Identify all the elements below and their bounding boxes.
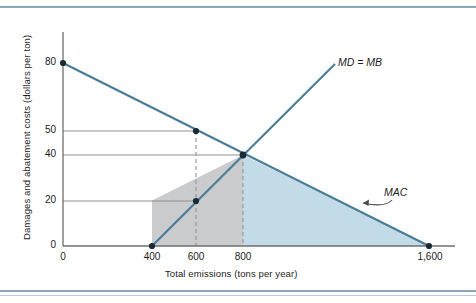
bottom-rule-primary xyxy=(0,290,476,292)
point-400-0 xyxy=(149,243,155,249)
y-tick-label-80: 80 xyxy=(26,56,56,67)
x-tick-label-800: 800 xyxy=(228,251,258,262)
x-tick-label-400: 400 xyxy=(137,251,167,262)
point-600-50 xyxy=(193,128,199,134)
y-tick-label-0: 0 xyxy=(26,239,56,250)
y-tick-label-40: 40 xyxy=(26,148,56,159)
figure-container: Damages and abatement costs (dollars per… xyxy=(0,0,476,303)
mac-label: MAC xyxy=(384,186,407,198)
y-tick-label-50: 50 xyxy=(26,124,56,135)
y-tick-label-20: 20 xyxy=(26,194,56,205)
x-tick-label-0: 0 xyxy=(48,251,78,262)
bottom-rule-secondary xyxy=(0,295,476,296)
x-axis-title: Total emissions (tons per year) xyxy=(165,268,297,279)
x-tick-label-600: 600 xyxy=(181,251,211,262)
md-mb-label: MD = MB xyxy=(338,56,382,68)
point-intersection-800-40 xyxy=(240,152,247,159)
point-600-20 xyxy=(193,198,199,204)
x-tick-label-1600: 1,600 xyxy=(410,251,450,262)
mac-arrow-head-icon xyxy=(363,200,369,207)
point-mac-intercept-80 xyxy=(60,60,66,66)
point-1600-0 xyxy=(426,243,432,249)
